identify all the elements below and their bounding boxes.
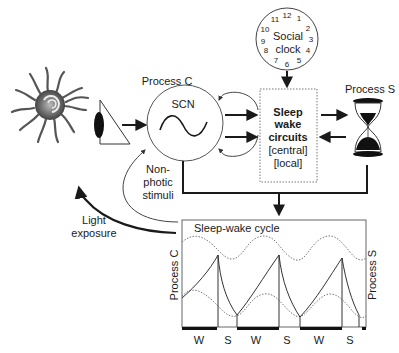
wake-bar-1: [182, 327, 217, 330]
process-c-axis-label: Process C: [168, 250, 180, 301]
svg-text:11: 11: [271, 15, 280, 24]
svg-text:Light: Light: [82, 214, 106, 226]
svg-text:[local]: [local]: [274, 157, 303, 169]
svg-text:8: 8: [264, 46, 269, 55]
wake-bar-2: [237, 327, 279, 330]
svg-text:wake: wake: [274, 118, 302, 130]
cycle-title: Sleep-wake cycle: [194, 222, 280, 234]
sleep-wake-regulation-diagram: Process C SCN 12 1 2 3 4 5 6 7 8 9 10 11…: [0, 0, 399, 353]
state-label: S: [224, 334, 231, 346]
state-label: W: [194, 334, 205, 346]
svg-text:exposure: exposure: [71, 227, 116, 239]
scn-circle: [147, 85, 223, 161]
state-label: W: [314, 334, 325, 346]
eye-icon: [94, 100, 130, 144]
social-clock-label-2: clock: [275, 43, 301, 55]
svg-text:[central]: [central]: [268, 144, 307, 156]
svg-text:stimuli: stimuli: [142, 189, 173, 201]
state-label: W: [251, 334, 262, 346]
state-label: S: [346, 334, 353, 346]
sleep-wake-circuits-box: Sleep wake circuits [central] [local]: [260, 89, 317, 182]
hourglass-icon: [353, 98, 383, 157]
svg-text:6: 6: [285, 60, 290, 69]
process-c-group: Process C SCN: [142, 75, 223, 161]
svg-text:2: 2: [306, 24, 311, 33]
svg-text:3: 3: [309, 35, 314, 44]
svg-text:Non-: Non-: [146, 163, 170, 175]
svg-text:10: 10: [261, 25, 270, 34]
feedback-arrow-bottom: [219, 135, 258, 156]
wake-bar-4: [362, 327, 366, 330]
svg-text:4: 4: [306, 46, 311, 55]
process-s-title: Process S: [345, 83, 395, 95]
svg-text:7: 7: [274, 56, 279, 65]
social-clock-label-1: Social: [273, 30, 303, 42]
svg-text:circuits: circuits: [268, 131, 307, 143]
feedback-arrow-top: [219, 92, 258, 110]
svg-text:9: 9: [261, 37, 266, 46]
sun-icon: [12, 68, 88, 142]
svg-text:Sleep: Sleep: [273, 106, 303, 118]
wake-bar-3: [300, 327, 342, 330]
process-s-group: Process S: [345, 83, 395, 157]
social-clock-icon: 12 1 2 3 4 5 6 7 8 9 10 11 Social clock: [256, 8, 318, 70]
non-photic-stimuli: Non- photic stimuli: [123, 150, 178, 222]
process-s-axis-label: Process S: [366, 250, 378, 300]
scn-label: SCN: [171, 98, 194, 110]
svg-text:12: 12: [283, 11, 292, 20]
sleep-wake-cycle-panel: Sleep-wake cycle Process C Process S W S…: [168, 220, 378, 346]
svg-text:5: 5: [297, 56, 302, 65]
svg-text:1: 1: [297, 14, 302, 23]
state-label: S: [283, 334, 290, 346]
svg-text:photic: photic: [143, 176, 173, 188]
